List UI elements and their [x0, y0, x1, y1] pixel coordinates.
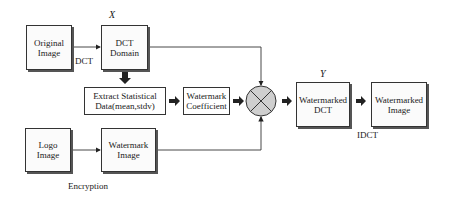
- variable-y-label: Y: [320, 69, 326, 79]
- encryption-edge-label: Encryption: [68, 181, 108, 191]
- block-arrow-down: [119, 72, 131, 84]
- variable-x-label: X: [109, 10, 115, 20]
- extract-statistical-data-node: Extract Statistical Data(mean,stdv): [84, 87, 166, 115]
- logo-image-node: Logo Image: [25, 128, 71, 172]
- arrow-watermark-to-combiner: [156, 117, 261, 150]
- watermark-coefficient-node: Watermark Coefficient: [183, 87, 230, 115]
- watermark-image-node: Watermark Image: [101, 128, 156, 172]
- watermarked-image-node: Watermarked Image: [371, 82, 427, 127]
- watermarked-dct-node: Watermarked DCT: [296, 82, 350, 127]
- dct-domain-node: DCT Domain: [101, 25, 148, 70]
- idct-edge-label: IDCT: [357, 130, 378, 140]
- dct-edge-label: DCT: [75, 56, 93, 66]
- original-image-node: Original Image: [26, 25, 72, 70]
- multiplier-combiner-icon: [246, 86, 276, 116]
- arrow-dct-to-combiner: [148, 47, 261, 85]
